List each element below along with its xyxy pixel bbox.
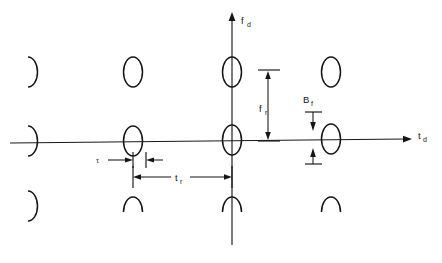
response-blob-clipped-left-bottom (28, 191, 38, 221)
response-blob-clipped-bottom (322, 197, 341, 212)
response-blob-clipped-left-mid (28, 126, 38, 156)
ambiguity-diagram-figure: f r B f t r (0, 0, 442, 263)
doppler-axis-label: f (241, 15, 244, 26)
response-blob-full (124, 126, 143, 156)
dimension-tau-arrowhead-outward (146, 157, 154, 162)
dimension-f-r: f r (258, 70, 280, 141)
doppler-axis-arrowhead (229, 12, 236, 21)
dimension-b-f-lower-arrowhead (310, 148, 316, 157)
dimension-tau-arrowhead-inward (125, 157, 133, 162)
dimension-f-r-arrowhead-up (265, 71, 271, 79)
dimension-t-r-arrowhead-right (224, 174, 232, 180)
response-blob-grid (28, 57, 341, 221)
delay-time-axis (10, 136, 412, 143)
dimension-t-r-label: t (175, 172, 178, 183)
dimension-b-f: B f (303, 94, 322, 164)
dimension-b-f-label: B (303, 94, 309, 105)
dimension-t-r-label-subscript: r (180, 178, 183, 185)
dimension-b-f-upper-arrowhead (310, 122, 316, 131)
doppler-axis-label-subscript: d (247, 21, 251, 28)
delay-axis-arrowhead (403, 136, 412, 143)
dimension-t-r-arrowhead-left (133, 174, 141, 180)
diagram-canvas: f r B f t r (0, 0, 442, 263)
dimension-b-f-label-subscript: f (311, 100, 313, 107)
dimension-t-r: t r (133, 166, 232, 188)
delay-axis-label-subscript: d (423, 136, 427, 143)
delay-axis-line (10, 139, 406, 143)
dimension-f-r-label: f (259, 103, 262, 114)
dimension-f-r-arrowhead-down (265, 132, 271, 140)
delay-axis-label: t (418, 130, 421, 141)
response-blob-full (124, 57, 143, 87)
doppler-frequency-axis (229, 12, 236, 245)
response-blob-clipped-bottom (124, 197, 143, 212)
dimension-tau-label: τ (96, 156, 100, 165)
response-blob-full (322, 57, 341, 87)
axes-group (10, 12, 412, 245)
response-blob-full (322, 124, 341, 154)
response-blob-clipped-left-top (28, 57, 38, 87)
